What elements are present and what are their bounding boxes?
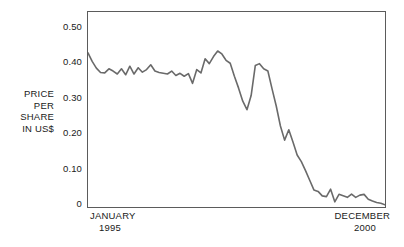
x-axis-tick-start-year: 1995 [90, 222, 136, 234]
x-axis-tick-end-year: 2000 [335, 222, 390, 234]
y-axis-title-line-1: PRICE [2, 88, 54, 100]
y-axis-tick-label: 0 [48, 198, 82, 209]
y-axis-tick-label: 0.20 [48, 127, 82, 138]
x-axis-tick-label-end: DECEMBER 2000 [335, 210, 390, 233]
y-axis-title-line-3: SHARE [2, 111, 54, 123]
x-axis-tick-label-start: JANUARY 1995 [90, 210, 136, 233]
y-axis-tick-label: 0.50 [48, 21, 82, 32]
y-axis-tick-label: 0.30 [48, 92, 82, 103]
x-axis-tick-end-month: DECEMBER [335, 210, 390, 222]
y-axis-tick-label: 0.10 [48, 163, 82, 174]
y-axis-tick-label: 0.40 [48, 56, 82, 67]
price-per-share-line-chart: PRICE PER SHARE IN US$ 0.50 0.40 0.30 0.… [0, 0, 404, 247]
plot-area [87, 11, 386, 208]
y-axis-title-line-2: PER [2, 100, 54, 112]
y-axis-title-line-4: IN US$ [2, 123, 54, 135]
x-axis-tick-start-month: JANUARY [90, 210, 136, 222]
y-axis-title: PRICE PER SHARE IN US$ [2, 88, 54, 134]
price-series-line [88, 12, 385, 207]
